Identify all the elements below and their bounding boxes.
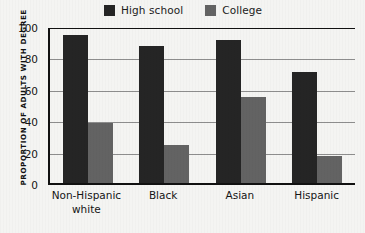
bar-high-school-black — [139, 46, 164, 183]
chart-legend: High school College — [104, 2, 262, 18]
x-label-line1: Asian — [202, 189, 279, 203]
x-label-line1: Hispanic — [278, 189, 355, 203]
bar-group-non-hispanic-white — [63, 28, 113, 183]
bar-college-black — [164, 145, 189, 183]
bar-high-school-asian — [216, 40, 241, 183]
x-label-line1: Black — [125, 189, 202, 203]
bar-college-hispanic — [317, 156, 342, 183]
bar-college-non-hispanic-white — [88, 123, 113, 183]
bar-chart: High school College PROPORTION OF ADULTS… — [0, 0, 365, 233]
x-label-black: Black — [125, 189, 202, 216]
legend-item-college: College — [205, 5, 262, 16]
y-tick-40: 40 — [25, 117, 38, 127]
x-label-line2: white — [48, 203, 125, 217]
bar-high-school-hispanic — [292, 72, 317, 183]
plot-area — [48, 28, 355, 185]
y-tick-80: 80 — [25, 54, 38, 64]
x-label-non-hispanic-white: Non-Hispanic white — [48, 189, 125, 216]
legend-item-high-school: High school — [104, 5, 183, 16]
y-tick-20: 20 — [25, 149, 38, 159]
x-label-asian: Asian — [202, 189, 279, 216]
legend-swatch-college — [205, 5, 216, 16]
y-tick-0: 0 — [31, 180, 38, 190]
bar-college-asian — [241, 97, 266, 183]
y-tick-100: 100 — [18, 23, 38, 33]
x-label-hispanic: Hispanic — [278, 189, 355, 216]
bar-group-hispanic — [292, 28, 342, 183]
x-label-line1: Non-Hispanic — [48, 189, 125, 203]
bar-high-school-non-hispanic-white — [63, 35, 88, 183]
bar-group-black — [139, 28, 189, 183]
x-axis-labels: Non-Hispanic white Black Asian Hispanic — [48, 189, 355, 216]
y-axis-ticks: 0 20 40 60 80 100 — [0, 0, 44, 233]
y-tick-60: 60 — [25, 86, 38, 96]
legend-swatch-high-school — [104, 5, 115, 16]
legend-label-high-school: High school — [121, 5, 183, 16]
bar-groups — [50, 28, 355, 183]
bar-group-asian — [216, 28, 266, 183]
legend-label-college: College — [222, 5, 262, 16]
